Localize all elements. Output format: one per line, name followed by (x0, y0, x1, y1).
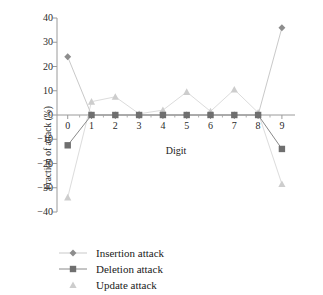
series-line (68, 28, 282, 115)
x-tick-label: 0 (65, 121, 70, 131)
diamond-marker (278, 24, 285, 31)
x-tick-label: 7 (232, 121, 237, 131)
diamond-marker (70, 250, 77, 257)
y-tick-label: 40 (43, 13, 53, 23)
legend-label: Insertion attack (96, 247, 164, 259)
series-diamond (64, 24, 285, 118)
x-axis-label: Digit (166, 145, 187, 156)
series-triangle (64, 86, 285, 201)
y-tick-label: −10 (37, 134, 53, 144)
chart-figure: Fraction of attack (%) −40−30−20−1001020… (0, 0, 323, 295)
y-tick-label: 0 (48, 110, 53, 120)
square-marker (88, 112, 94, 118)
y-tick-label: 10 (43, 86, 53, 96)
triangle-marker (231, 86, 238, 93)
square-marker (207, 112, 213, 118)
x-tick-label: 3 (137, 121, 142, 131)
y-tick-label: 20 (43, 62, 53, 72)
legend-item: Insertion attack (56, 245, 256, 261)
x-tick-label: 2 (113, 121, 118, 131)
square-marker (70, 266, 76, 272)
square-marker (255, 112, 261, 118)
diamond-marker (64, 53, 71, 60)
x-tick-label: 5 (184, 121, 189, 131)
chart-legend: Insertion attackDeletion attackUpdate at… (56, 245, 256, 293)
triangle-marker (64, 194, 71, 201)
x-tick-label: 6 (208, 121, 213, 131)
legend-item: Deletion attack (56, 261, 256, 277)
diamond-marker (56, 245, 90, 261)
square-marker (112, 112, 118, 118)
legend-item: Update attack (56, 277, 256, 293)
square-marker (184, 112, 190, 118)
x-tick-label: 1 (89, 121, 94, 131)
legend-label: Update attack (96, 279, 157, 291)
triangle-marker (56, 277, 90, 293)
square-marker (65, 142, 71, 148)
triangle-marker (69, 281, 76, 288)
x-tick-label: 9 (279, 121, 284, 131)
y-tick-label: 30 (43, 37, 53, 47)
y-tick-label: −30 (37, 183, 53, 193)
x-tick-label: 4 (160, 121, 165, 131)
plot-canvas (57, 18, 295, 212)
square-marker (231, 112, 237, 118)
triangle-marker (183, 88, 190, 95)
triangle-marker (278, 181, 285, 188)
square-marker (56, 261, 90, 277)
square-marker (279, 146, 285, 152)
square-marker (160, 112, 166, 118)
triangle-marker (112, 93, 119, 100)
x-tick-label: 8 (256, 121, 261, 131)
series-line (68, 115, 282, 149)
legend-label: Deletion attack (96, 263, 163, 275)
series-line (68, 90, 282, 198)
y-tick-label: −40 (37, 207, 53, 217)
y-tick-label: −20 (37, 159, 53, 169)
plot-area: −40−30−20−10010203040 0123456789 (57, 18, 295, 212)
square-marker (136, 112, 142, 118)
